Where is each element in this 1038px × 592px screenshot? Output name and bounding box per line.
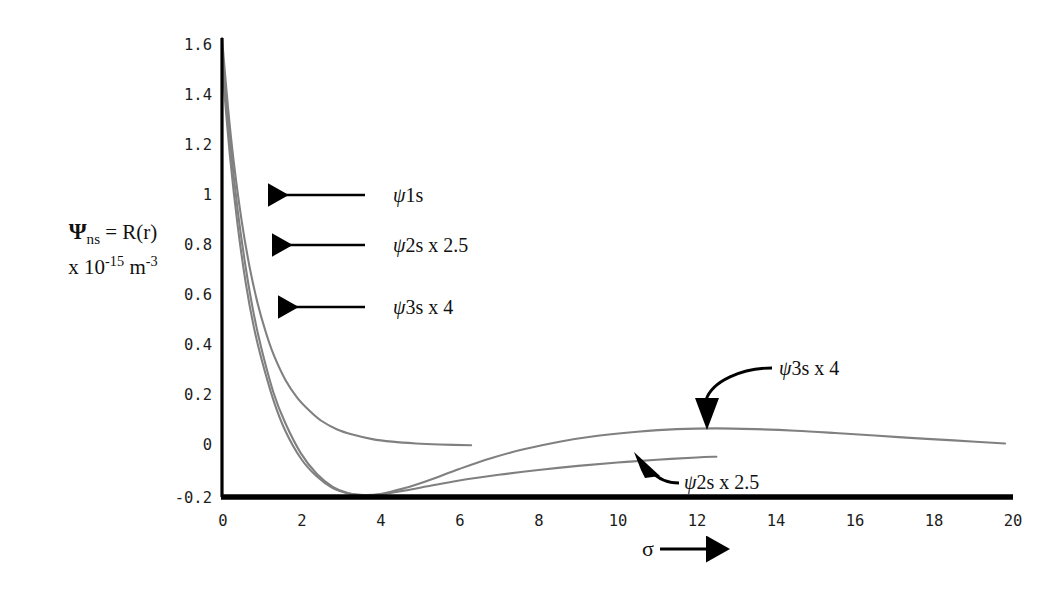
annotation-psi3s-right: ψ3s x 4 — [695, 357, 839, 430]
x-tick-label: 12 — [688, 512, 707, 530]
psi-glyph: ψ — [393, 296, 406, 319]
annotation-label: ψ2s x 2.5 — [393, 234, 468, 257]
psi-glyph: ψ — [393, 234, 406, 257]
y-axis-tick-labels: 1.6 1.4 1.2 1 0.8 0.6 0.4 0.2 0 -0.2 — [175, 36, 212, 507]
x-tick-label: 4 — [376, 512, 385, 530]
x-tick-label: 6 — [455, 512, 464, 530]
annotation-psi1s: ψ1s — [268, 184, 423, 207]
sigma-symbol: σ — [642, 536, 654, 561]
arrow-head-upleft-icon — [634, 452, 660, 478]
chart-figure: Ψns = R(r) x 10-15 m-3 1.6 1.4 1.2 1 0.8… — [0, 0, 1038, 592]
y-tick-label: -0.2 — [175, 489, 212, 507]
x-axis-tick-labels: 0 2 4 6 8 10 12 14 16 18 20 — [218, 512, 1022, 530]
y-tick-label: 1 — [203, 186, 212, 204]
curved-arrow-down-icon — [706, 368, 772, 400]
annotation-label: ψ3s x 4 — [393, 296, 453, 319]
x-tick-label: 14 — [767, 512, 786, 530]
x-tick-label: 8 — [534, 512, 543, 530]
x-tick-label: 2 — [297, 512, 306, 530]
y-tick-label: 1.2 — [184, 136, 212, 154]
annotation-label-text: 1s — [405, 184, 423, 206]
y-tick-label: 1.4 — [184, 86, 212, 104]
x-tick-label: 16 — [846, 512, 865, 530]
arrow-head-down-icon — [695, 398, 719, 430]
psi-glyph: ψ — [684, 471, 697, 494]
y-tick-label: 0.6 — [184, 286, 212, 304]
y-tick-label: 0.2 — [184, 386, 212, 404]
psi-glyph: ψ — [393, 184, 406, 207]
data-curves — [222, 38, 1005, 495]
plot-canvas: 1.6 1.4 1.2 1 0.8 0.6 0.4 0.2 0 -0.2 0 2… — [0, 0, 1038, 592]
annotation-psi3s-left: ψ3s x 4 — [278, 296, 453, 319]
y-tick-label: 0.8 — [184, 236, 212, 254]
curve-2sx25 — [222, 51, 716, 496]
annotation-label-text: 3s x 4 — [405, 296, 453, 318]
annotation-label-text: 3s x 4 — [791, 357, 839, 379]
annotation-label-text: 2s x 2.5 — [405, 234, 468, 256]
y-tick-label: 1.6 — [184, 36, 212, 54]
annotation-label-text: 2s x 2.5 — [696, 471, 759, 493]
x-tick-label: 18 — [925, 512, 944, 530]
annotation-label: ψ3s x 4 — [779, 357, 839, 380]
annotation-psi2s-left: ψ2s x 2.5 — [272, 234, 468, 257]
x-axis-title-group: σ — [642, 536, 706, 561]
x-tick-label: 10 — [609, 512, 628, 530]
x-tick-label: 0 — [218, 512, 227, 530]
x-tick-label: 20 — [1004, 512, 1023, 530]
psi-glyph: ψ — [779, 357, 792, 380]
y-tick-label: 0 — [203, 436, 212, 454]
y-tick-label: 0.4 — [184, 336, 212, 354]
annotation-label: ψ1s — [393, 184, 423, 207]
annotation-label: ψ2s x 2.5 — [684, 471, 759, 494]
